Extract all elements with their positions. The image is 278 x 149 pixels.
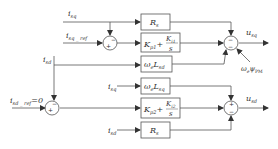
rs-d-text: Rs: [149, 126, 159, 136]
label-isq-mid: isq: [108, 82, 116, 93]
we-lsd-text: ωeLsd: [144, 60, 165, 70]
pi-q-text: Kp1+: [143, 40, 163, 51]
label-isd: isd: [43, 55, 51, 65]
control-block-diagram: + − + − − − + − isq isq _ ref isd isd _ …: [0, 0, 278, 149]
rs-q-text: Rs: [149, 18, 159, 28]
sign: +: [229, 100, 234, 107]
label-we-psi: ωeψPM: [241, 65, 263, 74]
sign: −: [228, 43, 233, 50]
label-isq-top: isq: [68, 9, 76, 20]
sign: −: [228, 36, 233, 43]
pi-q-num: Ki1: [165, 35, 176, 44]
label-isd-ref: isd _ ref=0: [10, 96, 43, 107]
sign: −: [111, 36, 116, 43]
label-isd-bottom: isd: [108, 126, 116, 136]
sign: +: [106, 42, 111, 49]
sign: +: [48, 106, 53, 113]
pi-q-den: s: [169, 45, 173, 53]
pi-d-den: s: [169, 110, 173, 118]
pi-d-num: Ki2: [165, 100, 176, 109]
sign: −: [52, 100, 57, 107]
label-usd: usd: [246, 94, 257, 104]
we-lsq-text: ωeLsq: [144, 82, 165, 93]
psi-line: [237, 49, 250, 62]
label-usq: usq: [246, 28, 257, 39]
pi-d-text: Kp2+: [143, 105, 163, 116]
label-isq-ref: isq _ ref: [66, 31, 88, 42]
sign: −: [229, 108, 234, 115]
isq-line: [63, 22, 140, 35]
